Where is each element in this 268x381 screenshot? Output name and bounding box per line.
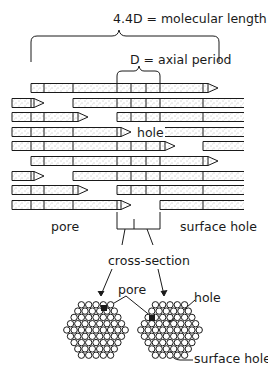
fibril-row (31, 84, 218, 93)
cross-section-circles (64, 302, 203, 359)
fibril-row (12, 113, 244, 122)
pore-marker (101, 305, 107, 311)
molecule-segment (12, 172, 44, 181)
cross-section-bracket (117, 212, 160, 245)
molecule-segment (12, 201, 131, 210)
hole-label: hole (136, 125, 165, 140)
axial-period-label: D = axial period (130, 52, 232, 67)
fibril-row (12, 99, 244, 108)
pore-label: pore (51, 219, 79, 234)
hole-bottom-label: hole (194, 290, 221, 305)
cross-section-label: cross-section (108, 253, 190, 268)
fibril-row (12, 201, 244, 210)
molecule-segment (12, 142, 175, 151)
molecule-segment (12, 128, 131, 137)
fibril-row (12, 186, 244, 195)
fibril-row (12, 142, 244, 151)
fibril-row (12, 172, 244, 181)
fibril-rows (12, 84, 244, 210)
molecule-segment (31, 157, 218, 166)
pore-marker (149, 315, 155, 321)
surface-hole-label: surface hole (180, 219, 257, 234)
fibril-row (12, 128, 244, 137)
molecule-segment (12, 113, 88, 122)
molecule-segment (12, 99, 44, 108)
surface-hole-bottom-label: surface hole (194, 351, 268, 366)
fibril-row (31, 157, 218, 166)
cross-section-right (138, 302, 203, 359)
pore-bottom-label: pore (118, 282, 146, 297)
molecular-length-label: 4.4D = molecular length (113, 11, 267, 26)
cross-section-left (64, 302, 129, 359)
molecule-segment (12, 186, 88, 195)
molecule-segment (31, 84, 218, 93)
